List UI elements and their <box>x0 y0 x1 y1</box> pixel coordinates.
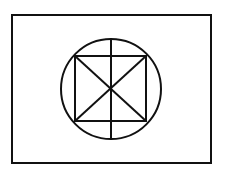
diagram-canvas <box>0 0 226 172</box>
diagram-svg <box>0 0 226 172</box>
